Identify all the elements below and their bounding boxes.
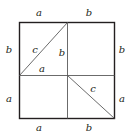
label-inner-b-upper: b [56, 48, 68, 58]
label-inner-c-lower: c [87, 84, 99, 94]
label-right-lower-a: a [116, 94, 128, 104]
label-inner-c-upper: c [29, 45, 41, 55]
label-bottom-right-b: b [83, 123, 95, 133]
label-left-upper-b: b [3, 45, 15, 55]
diagram-canvas [0, 0, 129, 135]
label-right-upper-b: b [116, 45, 128, 55]
label-top-left-a: a [33, 8, 45, 18]
label-inner-a-middle: a [36, 64, 48, 74]
label-left-lower-a: a [3, 94, 15, 104]
label-top-right-b: b [83, 8, 95, 18]
pythagorean-diagram: a b b a b a a b c b a c [0, 0, 129, 135]
outer-square [20, 23, 115, 119]
label-bottom-left-a: a [33, 123, 45, 133]
hypotenuse-lower-right-line [68, 76, 115, 119]
